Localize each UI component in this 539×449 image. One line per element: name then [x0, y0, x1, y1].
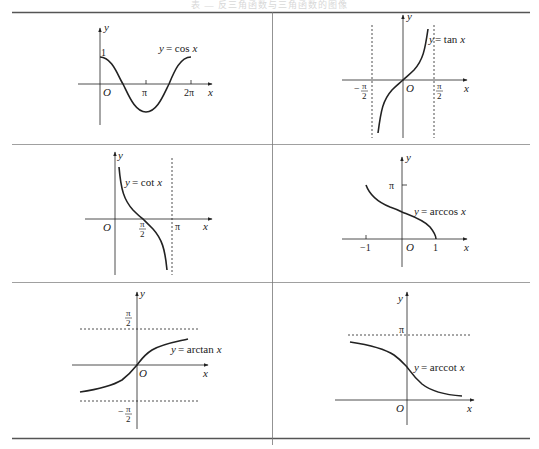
y-axis-label: y [139, 287, 145, 299]
function-label: y= arccotx [413, 361, 465, 373]
tick-label-pi: π [389, 180, 394, 191]
x-axis-label: x [466, 402, 472, 414]
tick-label-neg-half-pi-num: π [126, 404, 131, 414]
x-axis-label: x [463, 82, 469, 94]
origin-label: O [103, 86, 111, 98]
function-label: y= cosx [158, 42, 198, 54]
y-axis-label: y [117, 149, 123, 161]
x-axis-label: x [463, 241, 469, 253]
tick-label-neg-half-pi-num: π [362, 81, 367, 91]
graph-tan-labels: y O x − π 2 π 2 y= tanx [354, 10, 469, 101]
tick-label-neg-one: −1 [360, 242, 371, 253]
origin-label: O [139, 367, 147, 379]
tick-label-neg-half-pi-den: 2 [362, 91, 367, 101]
function-graph-table: y 1 O π 2π x y= cosx y O x − π 2 π 2 y= … [0, 0, 539, 449]
x-axis-label: x [202, 367, 208, 379]
origin-label: O [103, 221, 111, 233]
y-axis-label: y [397, 292, 403, 304]
tick-label-one: 1 [433, 242, 438, 253]
function-label: y= tanx [428, 33, 465, 45]
y-axis-label: y [103, 21, 109, 33]
x-axis-label: x [207, 86, 213, 98]
tick-label-half-pi-num: π [437, 81, 442, 91]
tick-label-neg-sign: − [354, 83, 360, 94]
tick-label-half-pi-den: 2 [140, 229, 145, 239]
origin-label: O [396, 402, 404, 414]
tick-label-pi: π [142, 87, 147, 98]
cos-curve [100, 57, 191, 112]
graph-arctan-labels: y π 2 − π 2 O x y= arctanx [118, 287, 222, 424]
y-axis-label: y [405, 151, 411, 163]
tick-label-2pi: 2π [184, 87, 194, 98]
tick-label-pi: π [399, 324, 404, 335]
function-label: y= cotx [124, 176, 162, 188]
function-label: y= arccosx [413, 205, 466, 217]
origin-label: O [406, 241, 414, 253]
y-axis-label: y [406, 10, 412, 22]
tick-label-1: 1 [101, 47, 106, 58]
tick-label-half-pi-num: π [126, 308, 131, 318]
graph-arccos-labels: y π −1 O 1 x y= arccosx [360, 151, 469, 253]
graph-cot [85, 152, 212, 275]
tick-label-pi: π [175, 221, 180, 232]
tick-label-half-pi-num: π [140, 219, 145, 229]
origin-label: O [406, 82, 414, 94]
table-grid [12, 12, 530, 445]
tick-label-neg-sign: − [118, 406, 124, 417]
tick-label-neg-half-pi-den: 2 [126, 414, 131, 424]
tick-label-half-pi-den: 2 [437, 91, 442, 101]
graph-cos-labels: y 1 O π 2π x y= cosx [101, 21, 213, 98]
graph-arccot [335, 292, 474, 425]
tick-label-half-pi-den: 2 [126, 318, 131, 328]
function-label: y= arctanx [170, 343, 222, 355]
graph-arctan [72, 292, 208, 429]
x-axis-label: x [202, 220, 208, 232]
graph-cot-labels: y O π π 2 x y= cotx [103, 149, 208, 239]
